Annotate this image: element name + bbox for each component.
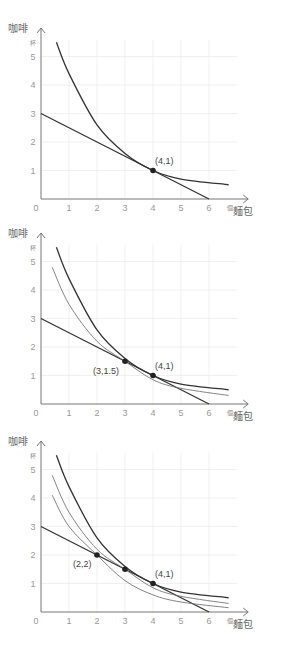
x-axis-label: 麵包 — [233, 205, 253, 217]
tangent-point — [150, 168, 156, 174]
y-tick-label: 3 — [30, 522, 35, 532]
point-label: (4,1) — [155, 361, 174, 371]
x-tick-label: 3 — [122, 408, 127, 418]
y-tick-label: 2 — [30, 137, 35, 147]
y-unit-label: 杯 — [30, 39, 36, 47]
tangent-point — [150, 581, 156, 587]
tangent-point — [94, 552, 100, 558]
x-tick-label: 2 — [94, 408, 99, 418]
chart-panel-2: 012345612345咖啡杯個麵包(3,1.5)(4,1) — [8, 228, 253, 422]
indifference-curve — [52, 475, 228, 603]
x-tick-label: 3 — [122, 203, 127, 213]
y-tick-label: 5 — [30, 52, 35, 62]
y-tick-label: 5 — [30, 257, 35, 267]
point-label: (4,1) — [155, 569, 174, 579]
y-tick-label: 1 — [30, 579, 35, 589]
x-tick-label: 2 — [94, 203, 99, 213]
y-tick-label: 4 — [30, 80, 35, 90]
y-axis-label: 咖啡 — [8, 228, 28, 239]
x-tick-label: 4 — [150, 203, 155, 213]
indifference-curve-charts: 012345612345咖啡杯個麵包(4,1)012345612345咖啡杯個麵… — [0, 0, 282, 646]
x-tick-label: 1 — [66, 408, 71, 418]
tangent-point — [150, 373, 156, 379]
tangent-point — [122, 566, 128, 572]
y-tick-label: 1 — [30, 371, 35, 381]
y-axis-label: 咖啡 — [8, 436, 28, 447]
x-tick-label: 1 — [66, 203, 71, 213]
x-tick-label: 5 — [178, 408, 183, 418]
y-unit-label: 杯 — [30, 452, 36, 460]
x-tick-label: 5 — [178, 203, 183, 213]
x-tick-label: 6 — [206, 616, 211, 626]
x-tick-label: 1 — [66, 616, 71, 626]
x-tick-label: 6 — [206, 203, 211, 213]
y-tick-label: 4 — [30, 285, 35, 295]
x-tick-label: 4 — [150, 616, 155, 626]
point-label: (3,1.5) — [93, 366, 119, 376]
chart-panel-1: 012345612345咖啡杯個麵包(4,1) — [8, 23, 253, 217]
y-tick-label: 5 — [30, 465, 35, 475]
indifference-curve — [52, 495, 228, 608]
x-tick-label: 0 — [33, 616, 38, 626]
tangent-point — [122, 358, 128, 364]
y-unit-label: 杯 — [30, 244, 36, 252]
point-label: (4,1) — [155, 156, 174, 166]
chart-panel-3: 012345612345咖啡杯個麵包(2,2)(4,1) — [8, 436, 253, 630]
point-label: (2,2) — [73, 559, 92, 569]
x-axis-label: 麵包 — [233, 410, 253, 422]
x-tick-label: 5 — [178, 616, 183, 626]
y-tick-label: 3 — [30, 109, 35, 119]
indifference-curve — [52, 267, 228, 395]
y-tick-label: 4 — [30, 493, 35, 503]
x-tick-label: 4 — [150, 408, 155, 418]
x-tick-label: 3 — [122, 616, 127, 626]
x-tick-label: 0 — [33, 408, 38, 418]
y-tick-label: 1 — [30, 166, 35, 176]
y-tick-label: 3 — [30, 314, 35, 324]
x-tick-label: 0 — [33, 203, 38, 213]
x-axis-label: 麵包 — [233, 618, 253, 630]
y-tick-label: 2 — [30, 550, 35, 560]
y-tick-label: 2 — [30, 342, 35, 352]
x-tick-label: 6 — [206, 408, 211, 418]
x-tick-label: 2 — [94, 616, 99, 626]
y-axis-label: 咖啡 — [8, 23, 28, 34]
